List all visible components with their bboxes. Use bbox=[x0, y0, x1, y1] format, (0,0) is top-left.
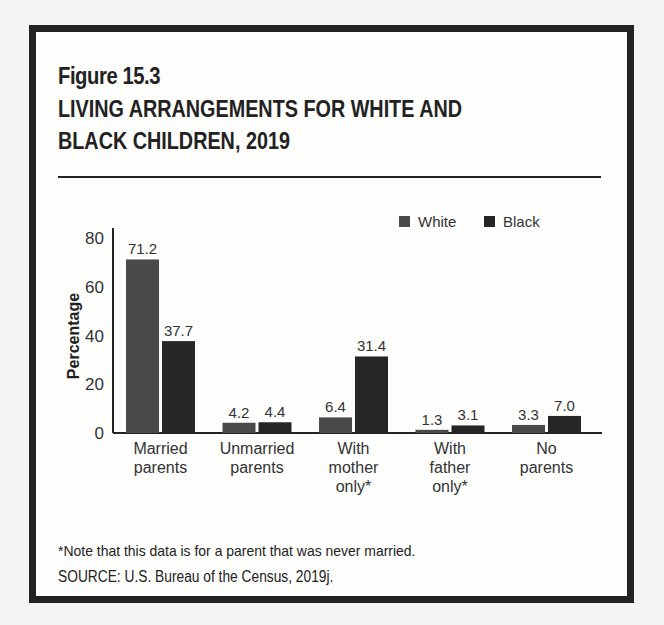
category-label: father bbox=[430, 459, 472, 476]
y-tick-label: 60 bbox=[85, 278, 104, 297]
category-label: only* bbox=[336, 478, 372, 495]
category-label: No bbox=[536, 440, 557, 457]
bar-chart: 020406080Percentage71.237.7Marriedparent… bbox=[0, 0, 664, 625]
category-label: Married bbox=[133, 440, 187, 457]
bar-white bbox=[512, 425, 545, 433]
bar-value-label: 3.1 bbox=[458, 406, 479, 423]
bar-value-label: 4.4 bbox=[265, 403, 286, 420]
y-tick-label: 0 bbox=[95, 424, 104, 443]
bar-white bbox=[223, 423, 256, 433]
bar-black bbox=[259, 422, 292, 433]
bar-white bbox=[416, 430, 449, 433]
legend-swatch-white bbox=[399, 216, 410, 227]
bar-white bbox=[126, 259, 159, 433]
category-label: only* bbox=[432, 478, 468, 495]
category-label: parents bbox=[134, 459, 187, 476]
bar-value-label: 6.4 bbox=[325, 398, 346, 415]
source-citation: SOURCE: U.S. Bureau of the Census, 2019j… bbox=[58, 568, 333, 586]
category-label: parents bbox=[520, 459, 573, 476]
bar-value-label: 71.2 bbox=[128, 240, 157, 257]
footnote: *Note that this data is for a parent tha… bbox=[58, 542, 415, 559]
y-axis-label: Percentage bbox=[65, 293, 82, 379]
category-label: Unmarried bbox=[220, 440, 295, 457]
legend-label-white: White bbox=[418, 213, 456, 230]
y-tick-label: 20 bbox=[85, 375, 104, 394]
bar-black bbox=[355, 356, 388, 433]
bar-black bbox=[548, 416, 581, 433]
bar-black bbox=[162, 341, 195, 433]
bar-value-label: 37.7 bbox=[164, 322, 193, 339]
bar-white bbox=[319, 417, 352, 433]
legend-label-black: Black bbox=[503, 213, 540, 230]
category-label: With bbox=[338, 440, 370, 457]
category-label: parents bbox=[230, 459, 283, 476]
legend-swatch-black bbox=[484, 216, 495, 227]
bar-value-label: 7.0 bbox=[554, 397, 575, 414]
bar-value-label: 1.3 bbox=[422, 411, 443, 428]
bar-value-label: 4.2 bbox=[229, 404, 250, 421]
bar-black bbox=[452, 425, 485, 433]
bar-value-label: 31.4 bbox=[357, 337, 386, 354]
category-label: With bbox=[434, 440, 466, 457]
category-label: mother bbox=[329, 459, 379, 476]
bar-value-label: 3.3 bbox=[518, 406, 539, 423]
y-tick-label: 40 bbox=[85, 327, 104, 346]
y-tick-label: 80 bbox=[85, 229, 104, 248]
